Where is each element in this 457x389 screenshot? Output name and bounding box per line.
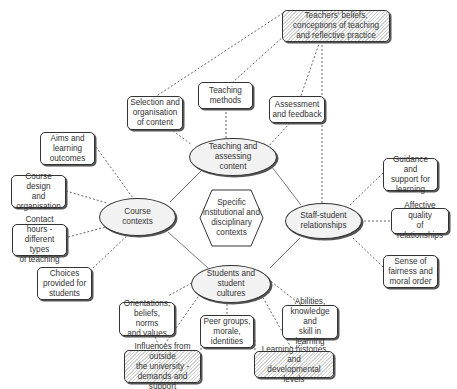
box-sense-of-fairness: Sense of fairness and moral order (383, 255, 438, 288)
hub-students-and-student-cultures: Students and student cultures (191, 265, 271, 303)
center-hexagon-label: Specific institutional and disciplinary … (198, 192, 265, 244)
solid-link-teaching-staff (272, 167, 301, 205)
box-teachers-beliefs: Teachers' beliefs, conceptions of teachi… (282, 10, 390, 42)
box-orientations-beliefs: Orientations, beliefs, norms and values (119, 302, 175, 336)
box-teaching-methods: Teaching methods (198, 82, 253, 109)
box-influences-outside: Influences from outside the university -… (124, 350, 201, 383)
dotted-link-fairness-staff (352, 237, 383, 267)
hub-teaching-assessing-content: Teaching and assessing content (189, 138, 277, 176)
box-aims-learning-outcomes: Aims and learning outcomes (40, 132, 95, 165)
dotted-link-design-course (66, 191, 107, 203)
diagram-canvas: Specific institutional and disciplinary … (0, 0, 457, 389)
box-peer-groups: Peer groups, morale, identities (200, 315, 254, 348)
dotted-link-aims-course (96, 147, 133, 198)
box-learning-histories: Learning histories and developmental lev… (254, 351, 334, 378)
dotted-link-guidance-staff (350, 173, 383, 205)
box-contact-hours: Contact hours - different types of teach… (12, 224, 67, 256)
solid-link-staff-students (270, 238, 300, 268)
hub-course-contexts: Course contexts (99, 198, 176, 236)
hub-staff-student-relationships: Staff-student relationships (285, 203, 362, 239)
box-selection-organisation: Selection and organisation of content (127, 96, 183, 130)
box-course-design: Course design and organisation (11, 175, 66, 208)
dotted-link-beliefs-methods (233, 36, 284, 82)
dotted-link-contact-course (68, 227, 106, 237)
box-assessment-feedback: Assessment and feedback (269, 96, 325, 123)
dotted-link-choices-course (93, 233, 130, 268)
box-guidance-support: Guidance and support for learning (383, 158, 438, 191)
box-affective-quality: Affective quality of relationships (391, 208, 449, 234)
box-choices-students: Choices provided for students (37, 267, 92, 300)
box-abilities-knowledge: Abilities, knowledge and skill in learni… (282, 305, 338, 339)
